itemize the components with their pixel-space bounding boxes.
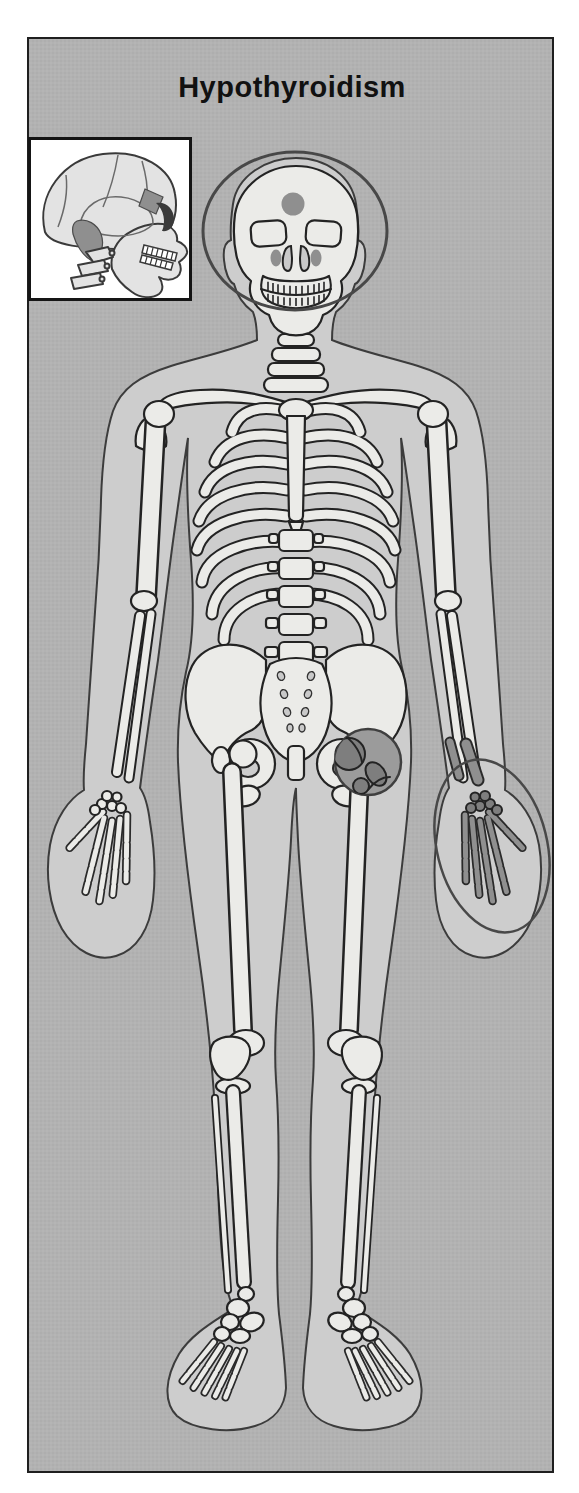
hip-highlight-spot (333, 729, 401, 795)
page-title: Hypothyroidism (178, 71, 406, 103)
left-eye-socket (250, 220, 287, 247)
sternum (287, 416, 305, 521)
figure-canvas: Hypothyroidism (0, 0, 579, 1493)
pubic-symphysis (288, 746, 304, 780)
forehead-highlight-spot (282, 193, 305, 216)
skull-inset (30, 139, 191, 300)
cheek-highlight-spot-left (271, 250, 282, 267)
figure-page: Hypothyroidism (0, 0, 579, 1493)
cheek-highlight-spot-right (311, 250, 322, 267)
right-eye-socket (305, 220, 342, 247)
